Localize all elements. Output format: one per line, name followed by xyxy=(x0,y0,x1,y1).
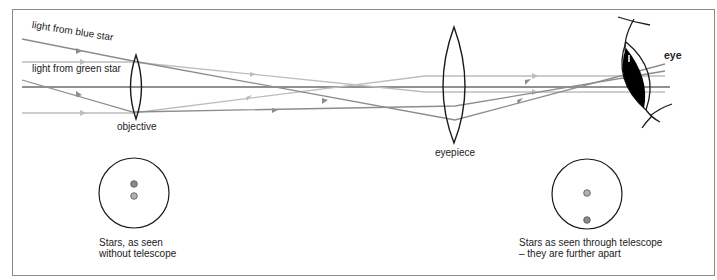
eye-icon xyxy=(618,17,672,128)
caption-through-telescope-line2: – they are further apart xyxy=(519,248,621,260)
eyepiece-lens xyxy=(443,27,465,143)
blue-star-dot xyxy=(131,181,138,188)
label-eyepiece: eyepiece xyxy=(435,147,475,159)
green-star-dot xyxy=(131,193,138,200)
green-star-dot-magnified xyxy=(584,190,591,197)
blue-star-dot-magnified xyxy=(584,217,591,224)
label-objective: objective xyxy=(117,121,156,133)
label-green-star-light: light from green star xyxy=(32,63,121,75)
caption-without-telescope-line2: without telescope xyxy=(99,248,176,260)
blue-star-rays xyxy=(22,39,665,120)
label-eye: eye xyxy=(664,49,682,61)
